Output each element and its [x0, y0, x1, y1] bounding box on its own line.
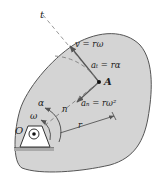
pivot-inner: [32, 132, 36, 136]
angular-accel-label: α: [38, 98, 44, 108]
velocity-label: v = rω: [75, 39, 103, 49]
point-a-label: A: [103, 76, 112, 87]
point-a: [97, 80, 101, 84]
ground-hatch: [14, 148, 54, 151]
tangent-axis-label: t: [40, 9, 45, 20]
angular-velocity-label: ω: [30, 111, 38, 121]
normal-accel-label: aₙ = rω²: [81, 98, 117, 108]
tangential-accel-label: aₜ = rα: [91, 60, 121, 70]
normal-axis-label: n: [62, 104, 67, 114]
rotation-kinematics-diagram: t v = rω aₜ = rα A aₙ = rω² n r α ω O: [0, 0, 161, 178]
pivot-label: O: [15, 125, 23, 136]
